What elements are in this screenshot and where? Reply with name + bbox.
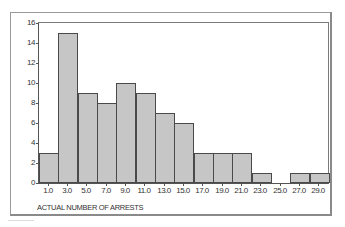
y-tick-label: 16 [21, 18, 35, 27]
x-axis-label: ACTUAL NUMBER OF ARRESTS [37, 203, 143, 212]
x-tick-label: 9.0 [115, 186, 135, 195]
x-tick-label: 29.0 [308, 186, 328, 195]
x-tick-mark [67, 183, 68, 186]
x-tick-mark [183, 183, 184, 186]
y-tick-label: 0 [21, 178, 35, 187]
histogram-bar [252, 173, 272, 183]
x-tick-mark [318, 183, 319, 186]
histogram-bar [116, 83, 136, 183]
x-tick-mark [48, 183, 49, 186]
histogram-bar [213, 153, 233, 183]
x-tick-mark [241, 183, 242, 186]
x-tick-label: 3.0 [57, 186, 77, 195]
x-tick-label: 7.0 [96, 186, 116, 195]
histogram-bar [174, 123, 194, 183]
y-tick-mark [36, 143, 39, 144]
x-tick-mark [299, 183, 300, 186]
histogram-bar [155, 113, 175, 183]
y-tick-label: 6 [21, 118, 35, 127]
y-tick-mark [36, 163, 39, 164]
x-tick-label: 15.0 [173, 186, 193, 195]
y-tick-mark [36, 43, 39, 44]
y-tick-mark [36, 123, 39, 124]
histogram-bar [58, 33, 78, 183]
x-tick-mark [86, 183, 87, 186]
y-tick-label: 10 [21, 78, 35, 87]
y-tick-label: 14 [21, 38, 35, 47]
histogram-bar [136, 93, 156, 183]
x-tick-mark [106, 183, 107, 186]
x-tick-label: 11.0 [134, 186, 154, 195]
histogram-bar [39, 153, 59, 183]
y-tick-label: 2 [21, 158, 35, 167]
x-tick-mark [260, 183, 261, 186]
x-tick-label: 17.0 [192, 186, 212, 195]
y-tick-label: 12 [21, 58, 35, 67]
x-tick-label: 19.0 [212, 186, 232, 195]
histogram-bar [232, 153, 252, 183]
histogram-bar [97, 103, 117, 183]
histogram-bar [290, 173, 310, 183]
x-tick-label: 5.0 [76, 186, 96, 195]
x-tick-mark [202, 183, 203, 186]
y-tick-mark [36, 23, 39, 24]
x-tick-label: 1.0 [38, 186, 58, 195]
histogram-bar [194, 153, 214, 183]
x-tick-mark [164, 183, 165, 186]
x-tick-mark [280, 183, 281, 186]
histogram-bar [310, 173, 330, 183]
y-tick-label: 8 [21, 98, 35, 107]
y-tick-mark [36, 63, 39, 64]
x-tick-label: 25.0 [270, 186, 290, 195]
x-tick-label: 13.0 [154, 186, 174, 195]
y-tick-mark [36, 83, 39, 84]
divider [8, 220, 34, 221]
x-tick-mark [144, 183, 145, 186]
x-tick-label: 27.0 [289, 186, 309, 195]
y-tick-mark [36, 103, 39, 104]
x-tick-label: 23.0 [250, 186, 270, 195]
y-tick-mark [36, 183, 39, 184]
x-tick-mark [125, 183, 126, 186]
plot-area [38, 22, 329, 184]
x-tick-label: 21.0 [231, 186, 251, 195]
x-tick-mark [222, 183, 223, 186]
histogram-bar [78, 93, 98, 183]
y-tick-label: 4 [21, 138, 35, 147]
